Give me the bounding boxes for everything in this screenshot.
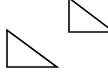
triangles-figure [0, 0, 108, 72]
figure-canvas [0, 0, 108, 72]
